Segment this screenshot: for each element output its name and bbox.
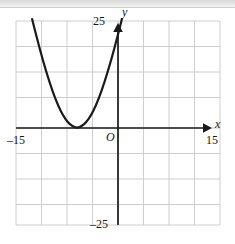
x-axis-arrowhead bbox=[203, 123, 212, 133]
graph-figure: y x O 25 –25 –15 15 bbox=[0, 0, 235, 244]
y-axis-min-tick-label: –25 bbox=[90, 218, 108, 230]
x-axis-min-tick-label: –15 bbox=[7, 134, 25, 146]
coordinate-plot bbox=[0, 0, 235, 244]
y-axis-max-tick-label: 25 bbox=[93, 15, 105, 27]
y-axis bbox=[113, 23, 123, 225]
y-axis-label: y bbox=[122, 6, 127, 18]
origin-label: O bbox=[106, 131, 115, 143]
x-axis-max-tick-label: 15 bbox=[206, 134, 218, 146]
x-axis-label: x bbox=[215, 118, 220, 130]
parabola-curve bbox=[32, 19, 122, 128]
